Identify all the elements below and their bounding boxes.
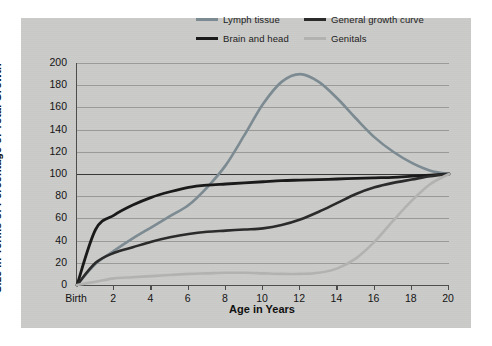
x-tick-6 (188, 285, 189, 290)
chart-legend: Lymph tissue General growth curve Brain … (196, 10, 446, 48)
y-axis-title: Size in Terms of Percentage of Total Gro… (0, 58, 7, 298)
y-tick-label-160: 160 (33, 100, 67, 112)
y-tick-label-0: 0 (33, 278, 67, 290)
legend-swatch-brain-and-head (196, 37, 218, 40)
y-tick-label-140: 140 (33, 123, 67, 135)
legend-swatch-lymph-tissue (196, 18, 218, 21)
x-tick-4 (150, 285, 151, 290)
x-tick-2 (113, 285, 114, 290)
curve-lymph-tissue (77, 74, 449, 285)
curve-general-growth-curve (77, 174, 449, 285)
x-tick-8 (225, 285, 226, 290)
growth-curves-figure: Lymph tissue General growth curve Brain … (0, 0, 492, 346)
y-tick-label-200: 200 (33, 56, 67, 68)
y-tick-label-20: 20 (33, 256, 67, 268)
x-tick-14 (336, 285, 337, 290)
x-tick-12 (299, 285, 300, 290)
x-axis-title: Age in Years (76, 303, 448, 315)
legend-item-genitals: Genitals (304, 33, 446, 44)
y-tick-label-60: 60 (33, 211, 67, 223)
legend-item-brain-and-head: Brain and head (196, 33, 304, 44)
x-tick-18 (411, 285, 412, 290)
legend-label-genitals: Genitals (331, 33, 367, 44)
legend-swatch-genitals (304, 37, 326, 40)
plot-inner: 020406080100120140160180200 (77, 63, 449, 285)
legend-item-general-growth-curve: General growth curve (304, 14, 446, 25)
y-tick-label-80: 80 (33, 189, 67, 201)
legend-label-brain-and-head: Brain and head (223, 33, 289, 44)
legend-label-general-growth-curve: General growth curve (331, 14, 424, 25)
y-tick-label-120: 120 (33, 145, 67, 157)
y-tick-label-180: 180 (33, 78, 67, 90)
x-tick-20 (448, 285, 449, 290)
legend-label-lymph-tissue: Lymph tissue (223, 14, 280, 25)
y-tick-label-40: 40 (33, 234, 67, 246)
plot-area: 020406080100120140160180200 (76, 63, 449, 286)
y-tick-label-100: 100 (33, 167, 67, 179)
x-tick-10 (262, 285, 263, 290)
legend-item-lymph-tissue: Lymph tissue (196, 14, 304, 25)
legend-swatch-general-growth-curve (304, 18, 326, 21)
curves-layer (77, 63, 449, 285)
x-tick-16 (374, 285, 375, 290)
